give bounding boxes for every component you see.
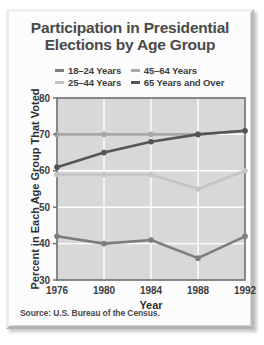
data-point bbox=[242, 128, 248, 134]
data-point bbox=[242, 168, 248, 174]
data-point bbox=[195, 186, 201, 192]
x-axis-tick-label: 1980 bbox=[93, 285, 116, 296]
data-point bbox=[148, 139, 154, 145]
source-note: Source: U.S. Bureau of the Census. bbox=[20, 308, 160, 318]
data-point bbox=[148, 237, 154, 243]
chart-panel-inner: Participation in Presidential Elections … bbox=[9, 12, 251, 326]
data-point bbox=[101, 150, 107, 156]
data-point bbox=[195, 132, 201, 138]
data-point bbox=[195, 255, 201, 261]
x-axis-tick-label: 1984 bbox=[140, 285, 163, 296]
data-point bbox=[242, 234, 248, 240]
data-point bbox=[101, 132, 107, 138]
data-point bbox=[54, 172, 60, 178]
data-point bbox=[101, 172, 107, 178]
chart-plot-area: 30405060708019761980198419881992YearPerc… bbox=[9, 12, 257, 332]
chart-panel-frame: Participation in Presidential Elections … bbox=[6, 9, 254, 329]
line-chart: 30405060708019761980198419881992YearPerc… bbox=[9, 12, 257, 332]
data-point bbox=[101, 241, 107, 247]
x-axis-tick-label: 1976 bbox=[46, 285, 69, 296]
data-point bbox=[148, 132, 154, 138]
data-point bbox=[54, 234, 60, 240]
y-axis-title: Percent in Each Age Group That Voted bbox=[29, 88, 41, 289]
x-axis-tick-label: 1988 bbox=[187, 285, 210, 296]
x-axis-tick-label: 1992 bbox=[234, 285, 257, 296]
data-point bbox=[148, 172, 154, 178]
data-point bbox=[54, 164, 60, 170]
